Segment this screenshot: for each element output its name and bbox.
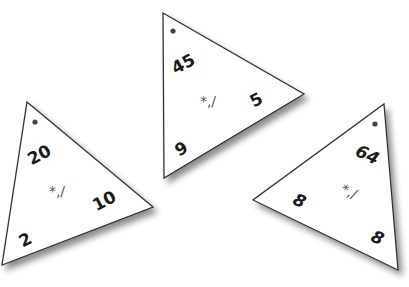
fact-card-right: 64 8 8 *,/ xyxy=(253,104,398,270)
punch-hole-dot xyxy=(372,121,377,126)
punch-hole-dot xyxy=(170,28,175,33)
fact-card-left: 20 10 2 *,/ xyxy=(2,102,153,265)
card-middle-operators: *,/ xyxy=(200,93,216,109)
fact-card-middle: 45 5 9 *,/ xyxy=(163,13,304,178)
fact-family-cards-photo: 20 10 2 *,/ 45 5 9 *,/ 64 8 8 *,/ xyxy=(0,0,409,287)
card-left-operators: *,/ xyxy=(49,183,65,199)
punch-hole-dot xyxy=(32,119,37,124)
